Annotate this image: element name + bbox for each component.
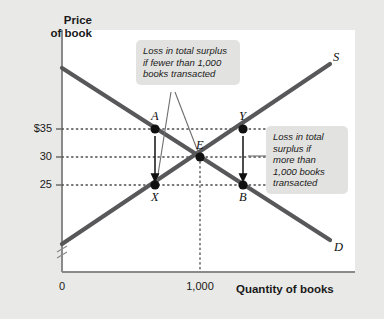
data-point-e xyxy=(195,152,204,161)
data-point-x xyxy=(150,180,159,189)
callout-fewer-than-1000: Loss in total surplus if fewer than 1,00… xyxy=(136,40,240,85)
data-point-b xyxy=(238,180,247,189)
supply-curve-label: S xyxy=(333,50,339,65)
callout-left-line1: Loss in total surplus xyxy=(143,45,233,57)
data-point-label-y: Y xyxy=(239,109,246,124)
demand-curve-label: D xyxy=(334,240,343,255)
data-point-label-e: E xyxy=(196,138,204,153)
callout-right-line2: surplus if xyxy=(273,143,341,155)
callout-left-line3: books transacted xyxy=(143,68,233,80)
data-point-y xyxy=(238,124,247,133)
callout-right-line4: 1,000 books xyxy=(273,166,341,178)
callout-left-line2: if fewer than 1,000 xyxy=(143,57,233,69)
data-point-label-a: A xyxy=(151,109,159,124)
axis-break-mark xyxy=(57,246,67,258)
data-point-label-x: X xyxy=(151,190,159,205)
supply-demand-chart: Price of book Quantity of books $35 30 2… xyxy=(0,0,384,319)
callout-right-line1: Loss in total xyxy=(273,131,341,143)
data-point-a xyxy=(150,124,159,133)
callout-right-line5: transacted xyxy=(273,177,341,189)
callout-right-line3: more than xyxy=(273,154,341,166)
data-point-label-b: B xyxy=(239,190,247,205)
callout-more-than-1000: Loss in total surplus if more than 1,000… xyxy=(266,126,348,194)
